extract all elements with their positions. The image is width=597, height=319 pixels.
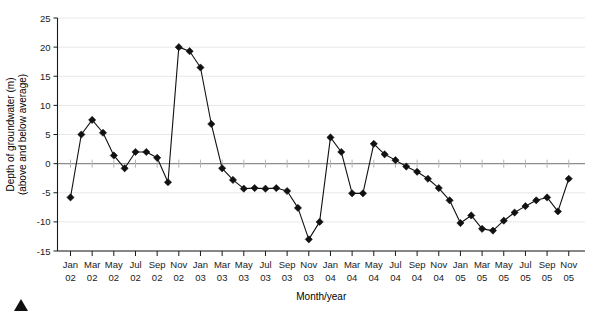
data-point-marker [143, 148, 150, 155]
x-tick-label-year: 04 [412, 272, 423, 283]
data-series-markers [67, 44, 572, 243]
chart-plot-area: -15-10-50510152025 Jan02Mar02May02Jul02S… [0, 0, 597, 319]
x-tick-label-year: 05 [455, 272, 466, 283]
y-axis-ticks [54, 18, 58, 251]
x-tick-label-year: 03 [239, 272, 250, 283]
x-tick-label-month: Jan [323, 259, 338, 270]
y-tick-label: 15 [40, 71, 51, 82]
x-tick-label-month: May [235, 259, 253, 270]
y-tick-label: 25 [40, 13, 51, 24]
data-point-marker [316, 218, 323, 225]
x-tick-label-year: 05 [563, 272, 574, 283]
x-axis-title: Month/year [296, 291, 347, 302]
x-axis-ticks [70, 160, 568, 256]
x-tick-label-year: 03 [260, 272, 271, 283]
data-point-marker [294, 204, 301, 211]
x-tick-label-month: Nov [300, 259, 317, 270]
data-point-marker [359, 190, 366, 197]
y-axis-title-line2: (above and below average) [17, 74, 28, 195]
data-point-marker [284, 187, 291, 194]
data-point-marker [197, 64, 204, 71]
x-tick-label-year: 03 [217, 272, 228, 283]
x-tick-label-month: Mar [84, 259, 100, 270]
y-tick-label: 10 [40, 100, 51, 111]
x-tick-label-month: May [495, 259, 513, 270]
x-tick-label-month: May [365, 259, 383, 270]
data-point-marker [154, 154, 161, 161]
x-tick-label-month: Jan [453, 259, 468, 270]
x-tick-label-month: Jul [259, 259, 271, 270]
x-tick-label-month: Jul [129, 259, 141, 270]
data-point-marker [457, 219, 464, 226]
x-tick-label-month: Jan [193, 259, 208, 270]
x-tick-label-year: 03 [282, 272, 293, 283]
x-tick-label-month: Sep [539, 259, 556, 270]
y-axis-title-line1: Depth of groundwater (m) [5, 78, 16, 192]
x-tick-label-year: 04 [325, 272, 336, 283]
data-point-marker [273, 184, 280, 191]
x-tick-label-year: 02 [130, 272, 141, 283]
x-tick-label-month: Nov [430, 259, 447, 270]
x-tick-label-year: 02 [152, 272, 163, 283]
x-tick-label-month: Sep [149, 259, 166, 270]
x-tick-label-month: Sep [409, 259, 426, 270]
x-tick-label-month: Jan [63, 259, 78, 270]
y-tick-label: 20 [40, 42, 51, 53]
x-tick-label-year: 05 [542, 272, 553, 283]
x-tick-label-year: 04 [347, 272, 358, 283]
data-point-marker [392, 157, 399, 164]
data-point-marker [208, 120, 215, 127]
x-tick-label-month: Mar [474, 259, 490, 270]
data-point-marker [522, 203, 529, 210]
data-point-marker [186, 48, 193, 55]
x-tick-label-month: Jul [519, 259, 531, 270]
data-point-marker [414, 168, 421, 175]
data-point-marker [262, 185, 269, 192]
x-tick-label-month: May [105, 259, 123, 270]
x-tick-label-year: 02 [87, 272, 98, 283]
y-tick-label: 0 [45, 158, 50, 169]
x-tick-label-year: 03 [195, 272, 206, 283]
x-tick-label-year: 05 [477, 272, 488, 283]
data-point-marker [305, 236, 312, 243]
x-axis-title: Month/year [296, 291, 347, 302]
x-tick-label-year: 04 [433, 272, 444, 283]
y-tick-label: -15 [37, 246, 51, 257]
x-tick-label-year: 04 [368, 272, 379, 283]
triangle-marker [14, 299, 28, 311]
data-point-marker [67, 194, 74, 201]
x-tick-label-year: 03 [304, 272, 315, 283]
data-point-marker [164, 179, 171, 186]
x-tick-label-year: 04 [390, 272, 401, 283]
data-point-marker [175, 44, 182, 51]
y-tick-label: -5 [42, 187, 50, 198]
data-point-marker [565, 175, 572, 182]
groundwater-depth-chart: -15-10-50510152025 Jan02Mar02May02Jul02S… [0, 0, 597, 319]
x-tick-label-year: 02 [109, 272, 120, 283]
x-axis-tick-labels: Jan02Mar02May02Jul02Sep02Nov02Jan03Mar03… [63, 259, 578, 283]
gridlines [58, 18, 586, 251]
x-tick-label-month: Nov [560, 259, 577, 270]
data-point-marker [251, 184, 258, 191]
x-tick-label-month: Nov [170, 259, 187, 270]
triangle-marker [14, 299, 28, 311]
x-tick-label-month: Jul [389, 259, 401, 270]
data-point-marker [132, 148, 139, 155]
y-axis-title: Depth of groundwater (m)(above and below… [5, 74, 28, 195]
y-axis-tick-labels: -15-10-50510152025 [37, 13, 51, 257]
x-tick-label-month: Sep [279, 259, 296, 270]
y-tick-label: -10 [37, 216, 51, 227]
x-tick-label-month: Mar [214, 259, 230, 270]
x-tick-label-year: 05 [520, 272, 531, 283]
x-tick-label-year: 02 [65, 272, 76, 283]
y-tick-label: 5 [45, 129, 50, 140]
x-tick-label-year: 02 [174, 272, 185, 283]
x-tick-label-month: Mar [344, 259, 360, 270]
x-tick-label-year: 05 [498, 272, 509, 283]
data-point-marker [533, 197, 540, 204]
data-point-marker [349, 190, 356, 197]
